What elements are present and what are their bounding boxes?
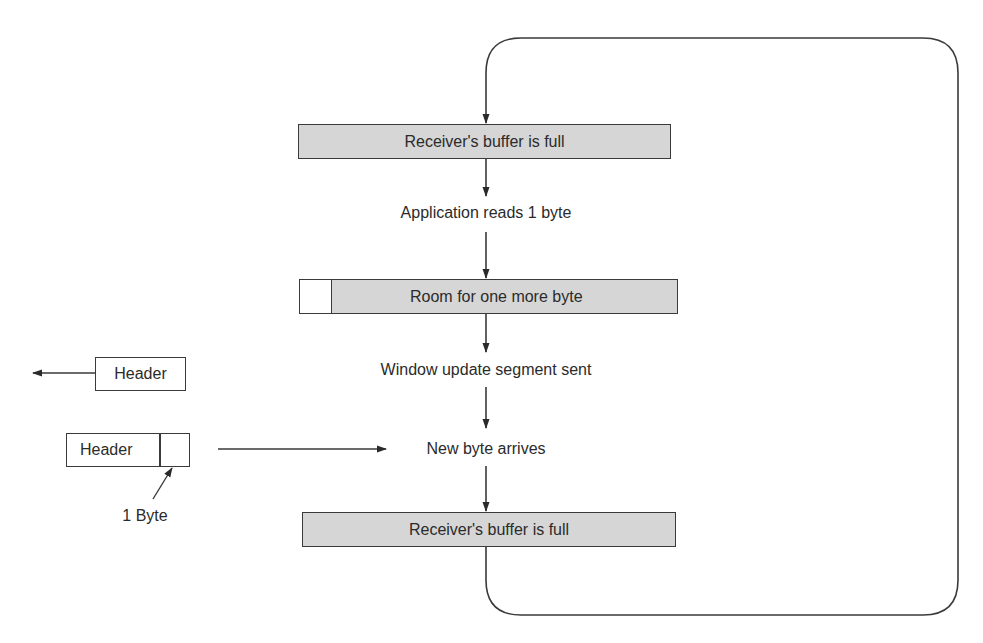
state-app-reads: Application reads 1 byte [401, 204, 572, 222]
header-label: Header [80, 441, 132, 459]
incoming-segment: Header [66, 433, 190, 467]
empty-byte-slot [299, 279, 332, 314]
state-label: Receiver's buffer is full [409, 521, 569, 539]
state-label: Receiver's buffer is full [404, 133, 564, 151]
header-label: Header [114, 365, 166, 383]
state-new-byte: New byte arrives [426, 440, 545, 458]
state-buffer-full-bottom: Receiver's buffer is full [302, 512, 676, 547]
state-buffer-full-top: Receiver's buffer is full [298, 124, 671, 159]
outgoing-header-segment: Header [95, 357, 186, 391]
arrow-byte-annotation [153, 468, 172, 499]
state-room-one-byte: Room for one more byte [299, 279, 678, 314]
state-label: Room for one more byte [410, 288, 583, 306]
data-byte-slot [159, 433, 161, 467]
byte-annotation: 1 Byte [122, 507, 167, 525]
state-window-update: Window update segment sent [381, 361, 592, 379]
